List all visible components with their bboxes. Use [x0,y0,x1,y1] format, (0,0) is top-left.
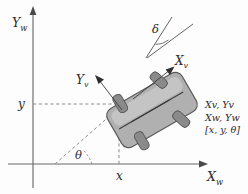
theta-angle-arc [84,151,93,165]
world-y-axis-label: Yw [12,17,27,32]
heading-angle-label: θ [75,150,82,162]
legend-row-pose-vector: [x, y, θ] [205,124,240,137]
diagram-canvas [0,0,248,194]
steering-direction-ray [146,17,172,58]
figure-root: Yw Xw Yv Xv δ θ x y Xv, Yv Xw, Yw [x, y,… [0,0,248,194]
vehicle-y-axis-label: Yv [76,74,88,89]
y-coordinate-label: y [18,98,25,110]
vehicle-group [98,60,205,160]
steering-angle-label: δ [152,24,159,36]
legend-row-world-frame: Xw, Yw [205,112,240,125]
world-x-axis-label: Xw [207,171,223,186]
vehicle-x-axis-label: Xv [175,55,188,70]
legend: Xv, Yv Xw, Yw [x, y, θ] [205,99,240,137]
world-y-axis-arrowhead [30,6,37,15]
vehicle-y-axis-arrowhead [95,75,104,84]
legend-row-vehicle-frame: Xv, Yv [205,99,240,112]
world-x-axis-arrowhead [199,161,208,168]
x-coordinate-label: x [116,170,123,182]
